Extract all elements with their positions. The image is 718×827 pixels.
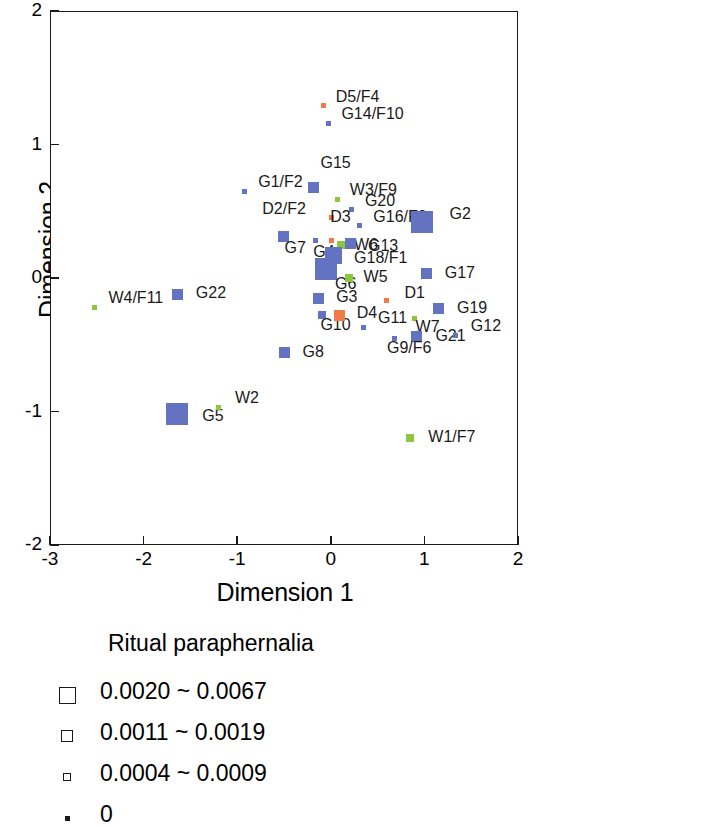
data-point-marker [345, 238, 356, 249]
data-point-label: G20 [365, 193, 395, 209]
data-point-label: W5 [364, 269, 388, 285]
data-point-label: G15 [321, 155, 351, 171]
data-point-label: G22 [196, 285, 226, 301]
legend-swatch-wrap [50, 674, 84, 716]
data-point-label: G19 [457, 300, 487, 316]
data-point-label: G7 [285, 240, 306, 256]
data-point-label: G18/F1 [354, 250, 407, 266]
data-point-marker [92, 305, 97, 310]
legend-swatch-wrap [50, 797, 84, 827]
legend-swatch-icon [65, 816, 70, 821]
data-point-marker [321, 103, 326, 108]
legend-item-label: 0 [100, 801, 113, 827]
x-axis-tick [424, 536, 426, 545]
data-point-marker [308, 182, 319, 193]
data-point-label: W1/F7 [428, 429, 475, 445]
legend-item-label: 0.0020 ~ 0.0067 [100, 678, 267, 705]
data-point-label: G14/F10 [341, 106, 403, 122]
data-point-label: D5/F4 [336, 89, 380, 105]
y-axis-tick [50, 277, 59, 279]
legend-item-label: 0.0011 ~ 0.0019 [100, 719, 265, 746]
legend-swatch-wrap [50, 756, 84, 798]
data-point-marker [384, 298, 389, 303]
legend-item: 0.0011 ~ 0.0019 [0, 715, 430, 757]
data-point-marker [453, 333, 458, 338]
data-point-label: D1 [404, 285, 424, 301]
y-axis-tick [50, 544, 59, 546]
x-axis-tick-label: 0 [311, 548, 351, 570]
y-axis-tick-label: 2 [4, 0, 42, 21]
legend-item: 0 [0, 797, 430, 827]
data-point-marker [216, 405, 221, 410]
data-point-marker [326, 121, 331, 126]
legend-swatch-wrap [50, 715, 84, 757]
data-point-marker [345, 274, 353, 282]
y-axis-tick-label: 0 [4, 266, 42, 288]
data-point-marker [166, 403, 188, 425]
y-axis-tick [50, 411, 59, 413]
data-point-label: W4/F11 [108, 290, 163, 306]
y-axis-tick-label: -2 [4, 533, 42, 555]
legend-item-label: 0.0004 ~ 0.0009 [100, 760, 267, 787]
legend-swatch-icon [61, 730, 73, 742]
data-point-marker [335, 197, 340, 202]
data-point-marker [315, 258, 337, 280]
y-axis-tick [50, 10, 59, 12]
data-point-marker [279, 347, 290, 358]
x-axis-tick [330, 536, 332, 545]
data-point-label: W2 [235, 390, 259, 406]
x-axis-title: Dimension 1 [50, 578, 520, 607]
data-point-marker [421, 268, 432, 279]
data-point-label: G9/F6 [387, 340, 431, 356]
data-point-marker [433, 303, 444, 314]
y-axis-tick [50, 144, 59, 146]
data-point-label: D4 [357, 305, 377, 321]
data-point-marker [361, 325, 366, 330]
legend-title: Ritual paraphernalia [108, 630, 314, 657]
x-axis-tick [236, 536, 238, 545]
x-axis-tick-label: 2 [498, 548, 538, 570]
y-axis-tick-label: 1 [4, 133, 42, 155]
data-point-marker [357, 223, 362, 228]
x-axis-tick [143, 536, 145, 545]
data-point-label: G17 [445, 265, 475, 281]
x-axis-tick [517, 536, 519, 545]
data-point-marker [334, 310, 345, 321]
x-axis-tick-label: -1 [217, 548, 257, 570]
legend-item: 0.0004 ~ 0.0009 [0, 756, 430, 798]
x-axis-tick-label: 1 [404, 548, 444, 570]
data-point-label: G21 [435, 328, 465, 344]
data-point-label: G2 [450, 206, 471, 222]
legend-swatch-icon [59, 687, 76, 704]
x-axis-tick-label: -2 [124, 548, 164, 570]
data-point-label: G11 [378, 310, 407, 326]
data-point-marker [313, 293, 324, 304]
data-point-marker [411, 211, 433, 233]
data-point-label: G3 [336, 289, 357, 305]
data-point-label: G12 [471, 318, 501, 334]
data-point-label: G8 [303, 344, 324, 360]
data-point-label: D3 [330, 209, 350, 225]
data-point-marker [406, 434, 414, 442]
data-point-marker [172, 289, 183, 300]
y-axis-tick-label: -1 [4, 400, 42, 422]
legend-item: 0.0020 ~ 0.0067 [0, 674, 430, 716]
legend-swatch-icon [63, 773, 71, 781]
data-point-label: G5 [202, 408, 223, 424]
scatter-plot-figure: Dimension 2 -3-2-1012-2-1012 D5/F4G14/F1… [0, 0, 718, 827]
data-point-label: D2/F2 [262, 201, 306, 217]
data-point-marker [242, 189, 247, 194]
data-point-label: G1/F2 [258, 174, 302, 190]
